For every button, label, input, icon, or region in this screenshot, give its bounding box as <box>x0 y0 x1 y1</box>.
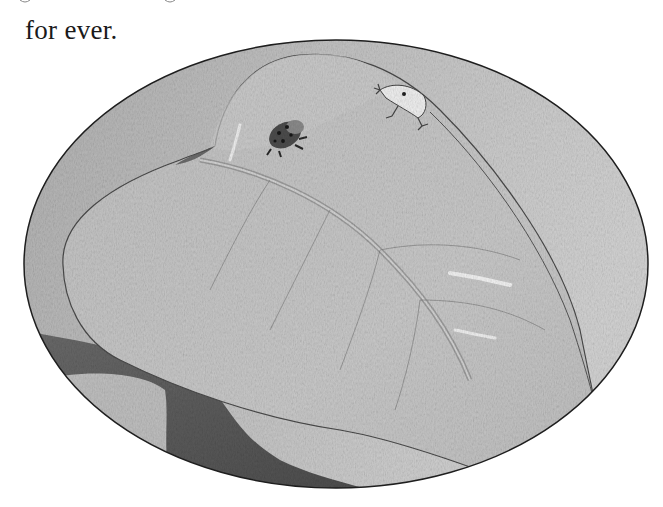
shadow-light-patch <box>40 373 175 500</box>
leaf-frogs-illustration <box>0 0 663 507</box>
